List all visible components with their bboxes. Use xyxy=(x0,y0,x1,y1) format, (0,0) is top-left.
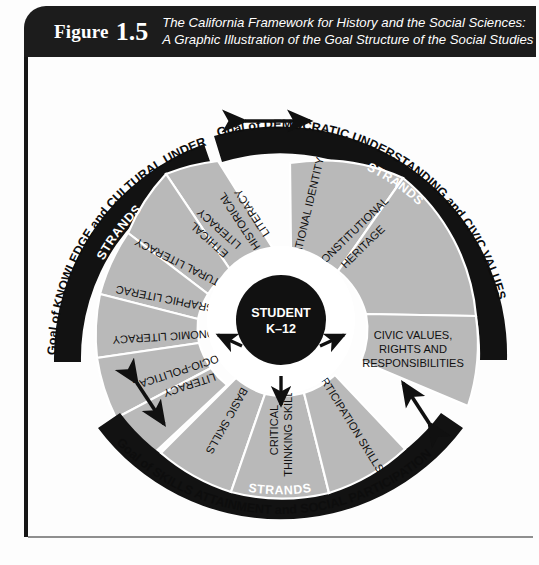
label-civic-values-1: CIVIC VALUES, xyxy=(374,329,453,341)
frame-bottom-rule xyxy=(28,536,533,538)
label-critical-thinking-2: THINKING SKILLS xyxy=(282,383,294,477)
figure-number: 1.5 xyxy=(116,17,149,47)
figure-banner-inner: Figure 1.5 The California Framework for … xyxy=(24,6,536,57)
figure-caption-line2: A Graphic Illustration of the Goal Struc… xyxy=(162,32,533,49)
label-civic-values-3: RESPONSIBILITIES xyxy=(362,357,464,369)
label-civic-values-2: RIGHTS AND xyxy=(379,343,447,355)
goal-structure-diagram: Goal of KNOWLEDGE and CULTURAL UNDERSTAN… xyxy=(28,58,533,528)
center-circle xyxy=(236,275,326,365)
figure-caption-line1: The California Framework for History and… xyxy=(162,15,533,32)
figure-label: Figure xyxy=(54,21,109,43)
center-student-node[interactable]: STUDENT K–12 xyxy=(207,246,355,394)
skills-strands-textpath: STRANDS xyxy=(248,481,313,497)
label-critical-thinking-1: CRITICAL xyxy=(268,405,280,456)
center-label-line1: STUDENT xyxy=(251,306,311,320)
center-label-line2: K–12 xyxy=(266,322,296,336)
skills-strands-label: STRANDS xyxy=(248,481,313,497)
figure-caption: The California Framework for History and… xyxy=(162,15,533,48)
figure-page: Figure 1.5 The California Framework for … xyxy=(0,0,539,565)
figure-banner: Figure 1.5 The California Framework for … xyxy=(24,6,536,57)
